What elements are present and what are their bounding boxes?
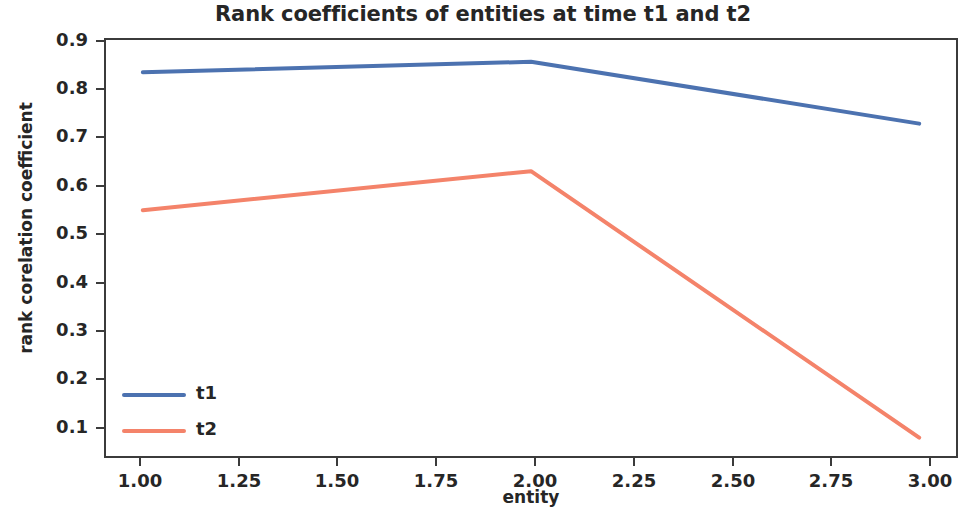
- y-tick-label: 0.4: [0, 271, 88, 292]
- legend-item-label: t1: [196, 382, 217, 403]
- y-tick-label: 0.5: [0, 222, 88, 243]
- x-tick-mark: [534, 458, 536, 466]
- y-tick-mark: [96, 378, 104, 380]
- y-tick-mark: [96, 40, 104, 42]
- y-tick-label: 0.6: [0, 174, 88, 195]
- y-tick-label: 0.1: [0, 416, 88, 437]
- y-tick-mark: [96, 330, 104, 332]
- x-tick-mark: [732, 458, 734, 466]
- x-tick-mark: [435, 458, 437, 466]
- y-tick-mark: [96, 233, 104, 235]
- y-tick-mark: [96, 282, 104, 284]
- y-tick-mark: [96, 136, 104, 138]
- y-tick-mark: [96, 427, 104, 429]
- x-tick-mark: [139, 458, 141, 466]
- page-title: Rank coefficients of entities at time t1…: [0, 2, 966, 26]
- chart-figure: Rank coefficients of entities at time t1…: [0, 0, 966, 520]
- y-tick-label: 0.9: [0, 29, 88, 50]
- x-tick-mark: [830, 458, 832, 466]
- y-tick-label: 0.7: [0, 125, 88, 146]
- y-tick-label: 0.2: [0, 367, 88, 388]
- line-series-t1: [143, 62, 919, 124]
- x-tick-mark: [929, 458, 931, 466]
- legend: t1t2: [120, 380, 290, 446]
- y-tick-mark: [96, 88, 104, 90]
- y-tick-label: 0.8: [0, 77, 88, 98]
- legend-item-label: t2: [196, 418, 217, 439]
- legend-line-swatch-icon: [122, 429, 186, 433]
- y-tick-mark: [96, 185, 104, 187]
- y-tick-label: 0.3: [0, 319, 88, 340]
- x-tick-mark: [633, 458, 635, 466]
- x-tick-mark: [336, 458, 338, 466]
- x-tick-label: 3.00: [870, 470, 966, 491]
- legend-line-swatch-icon: [122, 393, 186, 397]
- x-tick-mark: [238, 458, 240, 466]
